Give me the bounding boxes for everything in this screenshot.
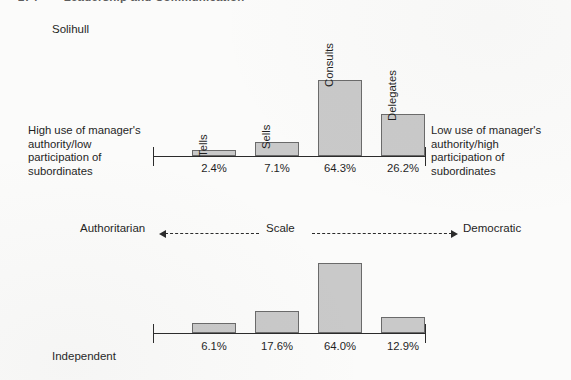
bar-value-delegates-bottom: 12.9% <box>373 340 433 352</box>
bar-delegates-bottom <box>381 317 425 333</box>
bar-value-tells-bottom: 6.1% <box>184 340 244 352</box>
axis-end-tick-left-bottom <box>153 324 154 343</box>
bar-tells-bottom <box>192 323 236 333</box>
figure-leadership-style-charts: Solihull Independent High use of manager… <box>0 0 571 380</box>
axis-line-bottom <box>153 333 425 334</box>
bar-value-sells-bottom: 17.6% <box>247 340 307 352</box>
bar-sells-bottom <box>255 311 299 333</box>
chart-independent: 6.1% 17.6% 64.0% 12.9% <box>0 0 571 380</box>
bar-consults-bottom <box>318 263 362 333</box>
bar-value-consults-bottom: 64.0% <box>310 340 370 352</box>
